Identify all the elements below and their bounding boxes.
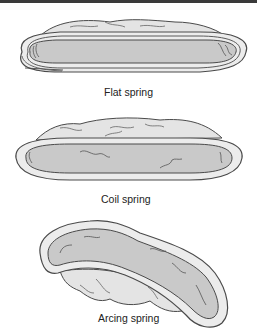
flat-spring-illustration bbox=[0, 10, 257, 85]
coil-spring-illustration bbox=[0, 110, 257, 185]
arcing-spring-caption: Arcing spring bbox=[98, 312, 159, 324]
flat-spring-figure: Flat spring bbox=[0, 10, 257, 110]
flat-spring-caption: Flat spring bbox=[104, 86, 153, 98]
arcing-spring-figure: Arcing spring bbox=[0, 213, 257, 336]
coil-spring-figure: Coil spring bbox=[0, 110, 257, 210]
top-border-rule bbox=[0, 0, 257, 3]
coil-spring-caption: Coil spring bbox=[101, 193, 151, 205]
